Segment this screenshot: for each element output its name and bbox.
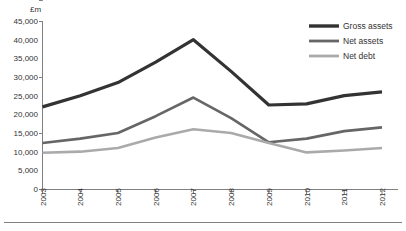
- line-chart-figure: £m 45,00040,00035,00030,00025,00020,0001…: [0, 0, 406, 231]
- x-axis-tick-marks: [43, 190, 383, 195]
- x-tick-label: 2007: [189, 188, 198, 206]
- y-axis-tick-marks: [39, 0, 43, 190]
- y-tick-label: 30,000: [14, 73, 39, 82]
- y-tick-label: 15,000: [14, 129, 39, 138]
- y-tick-label: 45,000: [14, 17, 39, 26]
- y-tick-label: 10,000: [14, 148, 39, 157]
- x-tick-label: 2009: [265, 188, 274, 206]
- y-axis-title: £m: [30, 5, 41, 14]
- series-line-gross-assets: [43, 40, 383, 107]
- x-tick-label: 2008: [227, 188, 236, 206]
- chart-legend: Gross assetsNet assetsNet debt: [309, 21, 393, 61]
- x-tick-label: 2004: [76, 188, 85, 206]
- legend-label-gross-assets: Gross assets: [343, 21, 393, 31]
- y-tick-label: 40,000: [14, 36, 39, 45]
- x-tick-label: 2011: [340, 188, 349, 206]
- x-tick-label: 2012: [378, 188, 387, 206]
- x-tick-label: 2003: [39, 188, 48, 206]
- x-axis-tick-labels: 2003200420052006200720082009201020112012: [39, 188, 388, 206]
- y-tick-label: 5,000: [18, 166, 39, 175]
- legend-label-net-debt: Net debt: [343, 51, 376, 61]
- y-axis-tick-labels: 45,00040,00035,00030,00025,00020,00015,0…: [14, 17, 39, 194]
- series-line-net-assets: [43, 98, 383, 144]
- chart-canvas: £m 45,00040,00035,00030,00025,00020,0001…: [0, 0, 406, 231]
- legend-label-net-assets: Net assets: [343, 36, 383, 46]
- x-tick-label: 2010: [303, 188, 312, 206]
- y-tick-label: 25,000: [14, 92, 39, 101]
- y-tick-label: 35,000: [14, 54, 39, 63]
- x-tick-label: 2006: [152, 188, 161, 206]
- x-tick-label: 2005: [114, 188, 123, 206]
- y-tick-label: 20,000: [14, 110, 39, 119]
